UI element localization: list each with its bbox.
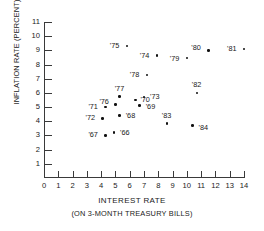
x-tick-6 bbox=[130, 171, 131, 178]
data-point-label-80: '80 bbox=[191, 44, 201, 52]
data-point-label-66: '66 bbox=[120, 129, 130, 137]
x-tick-1 bbox=[58, 171, 59, 178]
y-tick-10 bbox=[45, 36, 52, 37]
y-tick-label-2: 2 bbox=[20, 146, 40, 154]
y-tick-9 bbox=[45, 50, 52, 51]
data-point-76 bbox=[114, 103, 117, 106]
y-tick-label-7: 7 bbox=[20, 75, 40, 83]
data-point-84 bbox=[191, 124, 194, 127]
data-point-label-74: '74 bbox=[140, 52, 150, 60]
y-tick-7 bbox=[45, 79, 52, 80]
y-tick-8 bbox=[45, 65, 52, 66]
y-tick-1 bbox=[45, 164, 52, 165]
x-tick-5 bbox=[115, 171, 116, 178]
data-point-label-84: '84 bbox=[199, 124, 209, 132]
data-point-label-78: '78 bbox=[130, 71, 140, 79]
data-point-82 bbox=[196, 92, 199, 95]
data-point-74 bbox=[156, 54, 159, 57]
data-point-79 bbox=[186, 57, 189, 60]
y-tick-5 bbox=[45, 107, 52, 108]
data-point-68 bbox=[118, 114, 121, 117]
plot-area: 1234567891011 01234567891011121314 '66'6… bbox=[44, 22, 244, 178]
data-point-83 bbox=[166, 122, 169, 125]
y-tick-label-6: 6 bbox=[20, 89, 40, 97]
data-point-80 bbox=[207, 49, 210, 52]
data-point-78 bbox=[146, 74, 149, 77]
y-tick-label-10: 10 bbox=[20, 32, 40, 40]
x-tick-12 bbox=[215, 171, 216, 178]
x-tick-14 bbox=[244, 171, 245, 178]
y-tick-label-5: 5 bbox=[20, 103, 40, 111]
y-tick-6 bbox=[45, 93, 52, 94]
x-tick-2 bbox=[73, 171, 74, 178]
y-tick-label-4: 4 bbox=[20, 117, 40, 125]
data-point-label-77: '77 bbox=[115, 85, 125, 93]
x-tick-13 bbox=[230, 171, 231, 178]
y-tick-label-3: 3 bbox=[20, 131, 40, 139]
data-point-label-73: '73 bbox=[150, 93, 160, 101]
x-axis-title: INTEREST RATE bbox=[0, 196, 264, 205]
x-tick-8 bbox=[158, 171, 159, 178]
x-axis-subtitle: (ON 3-MONTH TREASURY BILLS) bbox=[0, 209, 264, 218]
data-point-label-79: '79 bbox=[170, 55, 180, 63]
x-tick-label-14: 14 bbox=[236, 181, 252, 190]
y-tick-label-11: 11 bbox=[20, 18, 40, 26]
data-point-label-75: '75 bbox=[110, 42, 120, 50]
data-point-81 bbox=[243, 48, 246, 51]
y-tick-label-8: 8 bbox=[20, 61, 40, 69]
data-point-label-72: '72 bbox=[86, 114, 96, 122]
x-tick-3 bbox=[87, 171, 88, 178]
x-tick-9 bbox=[173, 171, 174, 178]
scatter-chart: INFLATION RATE (PERCENT) 1234567891011 0… bbox=[0, 0, 264, 231]
data-point-72 bbox=[101, 117, 104, 120]
x-tick-10 bbox=[187, 171, 188, 178]
y-tick-label-9: 9 bbox=[20, 46, 40, 54]
x-tick-11 bbox=[201, 171, 202, 178]
data-point-75 bbox=[126, 45, 129, 48]
data-point-67 bbox=[104, 134, 107, 137]
x-tick-7 bbox=[144, 171, 145, 178]
data-point-label-67: '67 bbox=[88, 131, 98, 139]
y-tick-4 bbox=[45, 121, 52, 122]
data-point-label-83: '83 bbox=[162, 112, 172, 120]
data-point-label-76: '76 bbox=[99, 98, 109, 106]
y-tick-11 bbox=[45, 22, 52, 23]
data-point-label-68: '68 bbox=[126, 112, 136, 120]
data-point-label-71: '71 bbox=[88, 103, 98, 111]
y-axis-line bbox=[44, 22, 45, 178]
data-point-69 bbox=[138, 104, 141, 107]
data-point-label-82: '82 bbox=[192, 81, 202, 89]
data-point-66 bbox=[113, 131, 116, 134]
data-point-70 bbox=[134, 99, 137, 102]
data-point-label-70: '70 bbox=[140, 96, 150, 104]
y-tick-2 bbox=[45, 150, 52, 151]
data-point-label-81: '81 bbox=[227, 45, 237, 53]
y-tick-label-1: 1 bbox=[20, 160, 40, 168]
y-tick-3 bbox=[45, 135, 52, 136]
x-tick-4 bbox=[101, 171, 102, 178]
data-point-77 bbox=[118, 95, 121, 98]
